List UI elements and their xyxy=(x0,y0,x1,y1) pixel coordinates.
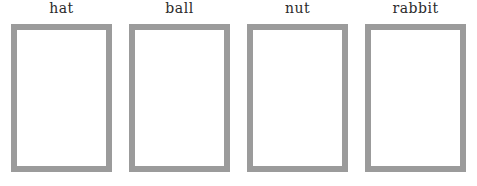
labeled-box-item-3: nut xyxy=(244,0,351,172)
labeled-box-item-4: rabbit xyxy=(362,0,469,172)
labeled-box-item-2: ball xyxy=(126,0,233,172)
box-label-nut: nut xyxy=(285,0,310,21)
drawing-box-nut[interactable] xyxy=(247,24,348,172)
box-label-ball: ball xyxy=(165,0,193,21)
worksheet-canvas: hat ball nut rabbit xyxy=(0,0,477,186)
drawing-box-rabbit[interactable] xyxy=(365,24,466,172)
labeled-box-row: hat ball nut rabbit xyxy=(0,0,477,186)
drawing-box-ball[interactable] xyxy=(129,24,230,172)
labeled-box-item-1: hat xyxy=(8,0,115,172)
box-label-rabbit: rabbit xyxy=(392,0,438,21)
drawing-box-hat[interactable] xyxy=(11,24,112,172)
box-label-hat: hat xyxy=(49,0,74,21)
